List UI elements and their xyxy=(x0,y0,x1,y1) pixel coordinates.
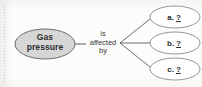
answer-ellipse-c[interactable] xyxy=(150,58,200,80)
answer-ellipse-b[interactable] xyxy=(150,32,200,54)
connector-branch-c xyxy=(120,43,150,67)
connector-branch-a xyxy=(120,19,150,43)
answer-ellipse-a[interactable] xyxy=(150,6,200,28)
concept-map-diagram: Gas pressure is affected by a.? b.? c.? xyxy=(0,0,202,87)
diagram-canvas xyxy=(0,0,202,87)
source-node-ellipse xyxy=(15,29,75,59)
